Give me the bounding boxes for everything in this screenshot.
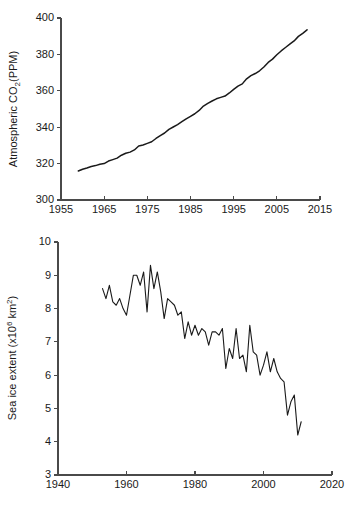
x-tick-label: 2005 <box>265 203 289 215</box>
sea-ice-y-axis-title-group: Sea ice extent (x106 km2) <box>5 296 18 420</box>
y-tick-label: 7 <box>45 335 51 347</box>
sea-ice-chart-svg: 345678910 19401960198020002020 Sea ice e… <box>0 228 346 506</box>
sea-ice-axes <box>58 242 332 475</box>
y-tick-label: 400 <box>36 11 54 23</box>
y-tick-label: 320 <box>36 157 54 169</box>
x-tick-label: 1955 <box>49 203 73 215</box>
y-tick-label: 6 <box>45 369 51 381</box>
x-tick-label: 1960 <box>114 478 138 490</box>
y-tick-label: 8 <box>45 302 51 314</box>
x-tick-label: 1985 <box>178 203 202 215</box>
chart-panel-sea-ice: 345678910 19401960198020002020 Sea ice e… <box>0 228 346 506</box>
co2-y-axis-title: Atmospheric CO2(PPM) <box>7 51 22 167</box>
y-tick-label: 360 <box>36 84 54 96</box>
x-tick-label: 2015 <box>308 203 332 215</box>
x-tick-label: 1995 <box>221 203 245 215</box>
x-tick-label: 2020 <box>320 478 344 490</box>
figure-container: 300320340360380400 195519651975198519952… <box>0 0 346 506</box>
sea-ice-data-line <box>103 265 302 435</box>
y-tick-label: 5 <box>45 402 51 414</box>
chart-panel-co2: 300320340360380400 195519651975198519952… <box>0 0 346 228</box>
x-tick-label: 1975 <box>135 203 159 215</box>
co2-y-axis-title-group: Atmospheric CO2(PPM) <box>7 51 22 167</box>
co2-axes <box>61 18 320 200</box>
co2-chart-svg: 300320340360380400 195519651975198519952… <box>0 0 346 228</box>
y-tick-label: 340 <box>36 121 54 133</box>
y-tick-label: 4 <box>45 435 51 447</box>
sea-ice-x-ticks: 19401960198020002020 <box>46 471 344 490</box>
x-tick-label: 1980 <box>183 478 207 490</box>
x-tick-label: 1940 <box>46 478 70 490</box>
y-tick-label: 9 <box>45 269 51 281</box>
sea-ice-y-ticks: 345678910 <box>39 235 58 480</box>
x-tick-label: 1965 <box>92 203 116 215</box>
x-tick-label: 2000 <box>251 478 275 490</box>
sea-ice-y-axis-title: Sea ice extent (x106 km2) <box>5 296 18 420</box>
y-tick-label: 380 <box>36 48 54 60</box>
co2-x-ticks: 1955196519751985199520052015 <box>49 196 332 215</box>
co2-data-line <box>78 30 307 171</box>
co2-y-ticks: 300320340360380400 <box>36 11 61 205</box>
y-tick-label: 10 <box>39 235 51 247</box>
